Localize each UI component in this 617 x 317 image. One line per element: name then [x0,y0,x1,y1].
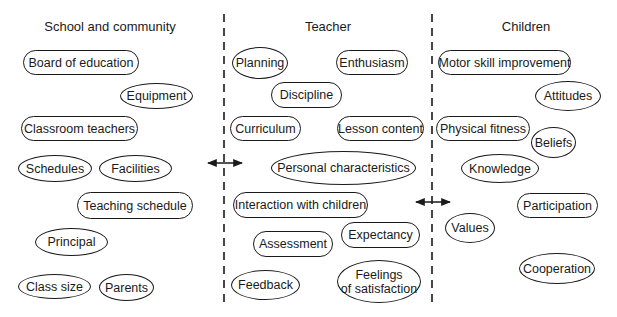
node-label: Expectancy [348,228,413,242]
node-class-size: Class size [18,274,91,299]
node-label: Enthusiasm [339,56,404,70]
node-expectancy: Expectancy [341,222,420,248]
node-label: Classroom teachers [24,122,135,136]
node-label: Board of education [29,56,134,70]
node-label: Schedules [26,162,84,176]
node-curriculum: Curriculum [230,116,301,141]
node-label: Discipline [280,88,334,102]
node-label: Participation [523,199,592,213]
node-label: Principal [48,235,96,249]
node-label: Teaching schedule [83,199,187,213]
node-principal: Principal [35,228,108,256]
node-cooperation: Cooperation [519,253,595,284]
node-label: Feelings of satisfaction [341,268,417,296]
node-label: Facilities [111,162,160,176]
node-parents: Parents [99,274,154,301]
node-label: Feedback [238,278,293,292]
node-schedules: Schedules [18,155,92,182]
node-label: Values [451,221,488,235]
node-lesson-content: Lesson content [337,116,424,141]
node-equipment: Equipment [120,83,193,109]
node-enthusiasm: Enthusiasm [336,50,408,75]
node-label: Parents [105,281,148,295]
node-knowledge: Knowledge [461,154,539,183]
node-physical-fitness: Physical fitness [436,116,530,141]
node-attitudes: Attitudes [535,81,601,111]
node-label: Interaction with children [235,198,366,212]
node-interaction-with-children: Interaction with children [233,192,368,218]
node-label: Class size [26,280,83,294]
node-classroom-teachers: Classroom teachers [21,116,138,141]
node-feedback: Feedback [231,270,300,300]
node-label: Physical fitness [440,122,526,136]
node-label: Beliefs [535,136,573,150]
node-facilities: Facilities [99,155,172,182]
node-board-of-education: Board of education [23,50,139,75]
node-label: Equipment [127,89,187,103]
node-discipline: Discipline [271,82,342,108]
node-label: Curriculum [235,122,295,136]
node-label: Lesson content [338,122,423,136]
node-planning: Planning [232,47,288,79]
node-feelings-of-satisfaction: Feelings of satisfaction [337,260,421,303]
node-label: Assessment [259,237,327,251]
node-label: Attitudes [544,89,593,103]
node-label: Knowledge [469,162,531,176]
node-label: Cooperation [523,262,591,276]
node-label: Personal characteristics [277,161,410,175]
node-label: Motor skill improvement [439,56,571,70]
node-participation: Participation [517,193,598,218]
node-personal-characteristics: Personal characteristics [271,151,416,185]
node-beliefs: Beliefs [531,127,576,158]
node-assessment: Assessment [253,231,333,257]
node-teaching-schedule: Teaching schedule [77,192,193,219]
node-motor-skill-improvement: Motor skill improvement [438,50,571,75]
node-values: Values [445,213,495,243]
node-label: Planning [236,56,285,70]
